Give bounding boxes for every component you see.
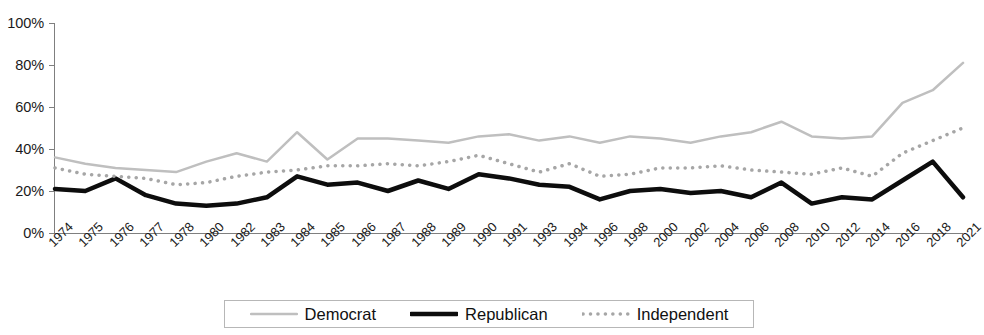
solid-light-line-swatch (250, 308, 298, 320)
plot-area (55, 23, 963, 233)
y-tick-mark (49, 191, 54, 192)
dotted-gray-line-swatch (582, 308, 630, 320)
legend-label: Republican (465, 306, 548, 323)
legend-item-democrat[interactable]: Democrat (250, 306, 377, 323)
y-tick-label: 100% (7, 16, 44, 31)
series-line-democrat (55, 63, 963, 172)
series-lines (55, 23, 963, 233)
legend-label: Independent (637, 306, 729, 323)
y-tick-label: 60% (15, 100, 44, 115)
y-tick-mark (49, 23, 54, 24)
y-tick-mark (49, 65, 54, 66)
y-tick-label: 40% (15, 142, 44, 157)
y-tick-label: 20% (15, 184, 44, 199)
series-line-republican (55, 162, 963, 206)
y-tick-label: 80% (15, 58, 44, 73)
chart-legend: DemocratRepublicanIndependent (224, 300, 754, 328)
legend-item-republican[interactable]: Republican (410, 306, 548, 323)
y-tick-mark (49, 107, 54, 108)
y-tick-label: 0% (23, 226, 44, 241)
y-tick-mark (49, 149, 54, 150)
solid-black-line-swatch (410, 308, 458, 320)
legend-item-independent[interactable]: Independent (582, 306, 729, 323)
legend-label: Democrat (305, 306, 377, 323)
